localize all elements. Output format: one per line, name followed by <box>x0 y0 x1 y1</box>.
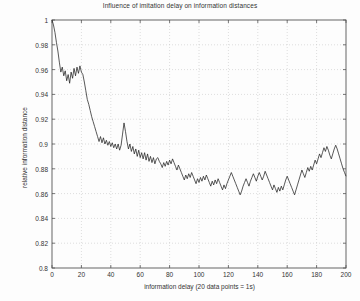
y-tick-label: 0.82 <box>18 240 48 247</box>
y-tick-label: 0.86 <box>18 190 48 197</box>
y-tick-label: 0.94 <box>18 91 48 98</box>
y-tick-label: 0.96 <box>18 66 48 73</box>
y-tick-label: 0.98 <box>18 41 48 48</box>
x-tick-label: 160 <box>275 271 299 278</box>
y-tick-label: 0.92 <box>18 116 48 123</box>
y-tick-label: 0.88 <box>18 165 48 172</box>
x-tick-label: 80 <box>158 271 182 278</box>
x-tick-label: 100 <box>187 271 211 278</box>
x-tick-label: 140 <box>246 271 270 278</box>
plot-area <box>0 0 360 301</box>
x-tick-label: 180 <box>305 271 329 278</box>
x-tick-label: 0 <box>40 271 64 278</box>
x-tick-label: 200 <box>334 271 358 278</box>
x-tick-label: 120 <box>216 271 240 278</box>
y-tick-label: 0.9 <box>18 141 48 148</box>
y-tick-label: 1 <box>18 17 48 24</box>
x-tick-label: 20 <box>69 271 93 278</box>
x-tick-label: 60 <box>128 271 152 278</box>
x-tick-label: 40 <box>99 271 123 278</box>
y-tick-label: 0.84 <box>18 215 48 222</box>
gridlines <box>52 20 346 268</box>
chart-figure: Influence of imitation delay on informat… <box>0 0 360 301</box>
